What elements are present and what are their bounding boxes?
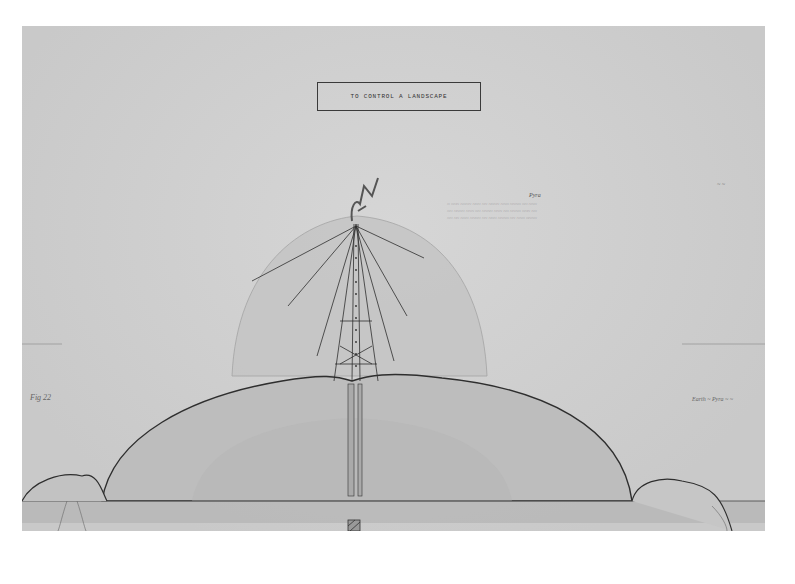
title-box: TO CONTROL A LANDSCAPE — [317, 82, 481, 111]
drawing-title: TO CONTROL A LANDSCAPE — [351, 93, 448, 100]
right-annotation: Earth ~ Pyra ~ ~ — [692, 396, 733, 402]
note-line-1: ~ ~~~ ~~~~ ~~~ ~~ ~~~~ ~~~ ~~~~ ~~ ~~~ — [447, 202, 537, 208]
drawing-sheet: TO CONTROL A LANDSCAPE Pyra ~ ~~~ ~~~~ ~… — [22, 26, 765, 531]
note-heading: Pyra — [529, 192, 541, 198]
note-line-2: ~~ ~~~~ ~~~ ~~ ~~~~ ~~~ ~~ ~~~~ ~~~ ~~ — [447, 209, 537, 215]
note-line-3: ~~ ~~ ~~~ ~~~~ ~~ ~~~ ~~~~ ~~ ~~~ ~~~~ — [447, 216, 537, 222]
corner-mark: ~ ~ — [717, 181, 725, 187]
figure-label: Fig 22 — [30, 393, 51, 402]
